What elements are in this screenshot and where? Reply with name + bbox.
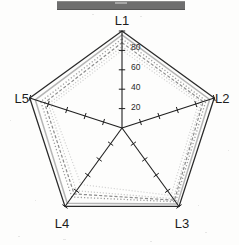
- tick-label-40: 40: [131, 82, 141, 92]
- axis-label-l1: L1: [115, 13, 129, 28]
- radial-axis: [30, 98, 122, 128]
- tick-label-20: 20: [131, 102, 141, 112]
- chart-canvas: 80 60 40 20 L1 L2 L3 L4 L5: [0, 0, 239, 245]
- axis-label-l4: L4: [55, 216, 69, 231]
- axis-label-l2: L2: [215, 91, 229, 106]
- radial-axis: [65, 128, 122, 206]
- axis-tick: [85, 173, 90, 177]
- axis-tick: [154, 173, 159, 177]
- tick-label-60: 60: [131, 62, 141, 72]
- axis-tick: [97, 158, 102, 162]
- axis-tick: [74, 189, 79, 193]
- tick-label-80: 80: [131, 42, 141, 52]
- axis-label-l3: L3: [175, 216, 189, 231]
- axis-label-l5: L5: [15, 91, 29, 106]
- axis-tick: [165, 189, 170, 193]
- axis-tick: [142, 158, 147, 162]
- radar-chart: 80 60 40 20 L1 L2 L3 L4 L5: [0, 0, 239, 245]
- axis-tick: [131, 142, 136, 146]
- axis-tick: [108, 142, 113, 146]
